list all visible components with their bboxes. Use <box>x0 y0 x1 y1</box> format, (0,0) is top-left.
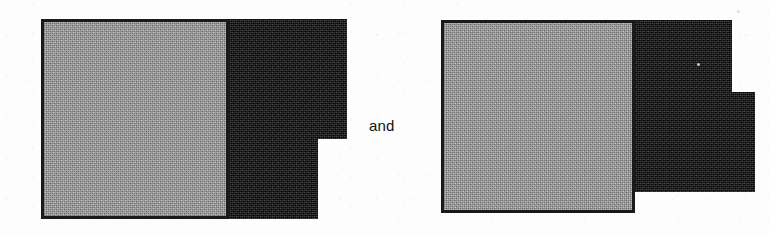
scan-speck <box>737 10 740 13</box>
figure-right-grey-region <box>441 20 632 213</box>
conjunction-label: and <box>369 118 395 133</box>
figure-right <box>441 20 756 213</box>
figure-left-grey-region <box>41 19 226 219</box>
scan-page: and <box>0 0 769 235</box>
figure-left-black-upper-region <box>226 19 347 139</box>
figure-left-black-lower-region <box>226 139 318 219</box>
figure-left <box>41 19 348 219</box>
figure-right-black-upper-region <box>632 20 732 92</box>
scan-speck <box>697 63 700 66</box>
figure-right-black-lower-region <box>632 92 755 192</box>
